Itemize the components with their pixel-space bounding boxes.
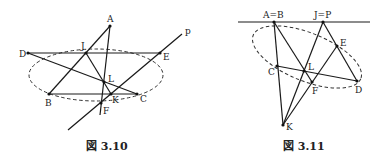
point-F [310, 80, 313, 83]
segment-JD [323, 22, 357, 81]
label-K: K [286, 122, 293, 132]
point-D [355, 79, 358, 82]
label-E: E [163, 52, 170, 62]
label-J-eq-P: J=P [313, 10, 331, 20]
point-L [302, 69, 305, 72]
segment-CD [277, 66, 357, 81]
figure-caption: 図 3.10 [86, 139, 128, 153]
label-A: A [106, 14, 114, 24]
point-K [281, 123, 284, 126]
segment-EK [283, 46, 337, 125]
figure-caption: 図 3.11 [283, 139, 325, 153]
figure-3-10: A D J E L B C K F p 図 3.10 [19, 14, 191, 153]
label-C: C [140, 94, 147, 104]
segment-AF [274, 22, 312, 82]
point-F [99, 101, 102, 104]
point-L [102, 80, 105, 83]
point-AB [272, 20, 275, 23]
label-E: E [340, 38, 347, 48]
label-A-eq-B: A=B [262, 10, 284, 20]
line-p [68, 34, 182, 130]
segment-AB [49, 26, 110, 94]
point-E [158, 51, 161, 54]
point-J [84, 51, 87, 54]
label-C: C [268, 67, 275, 77]
figure-3-11: A=B J=P E C L F D K 図 3.11 [238, 10, 370, 153]
label-D: D [19, 49, 26, 59]
point-A [108, 24, 111, 27]
label-F: F [103, 106, 109, 116]
segment-DC [28, 53, 137, 94]
point-E [335, 44, 338, 47]
label-F: F [312, 86, 318, 96]
point-D [26, 51, 29, 54]
point-C [135, 92, 138, 95]
point-C [275, 64, 278, 67]
label-K: K [112, 95, 119, 105]
diagram-canvas: A D J E L B C K F p 図 3.10 A [0, 0, 381, 165]
point-JP [321, 20, 324, 23]
label-B: B [45, 98, 52, 108]
label-D: D [355, 85, 362, 95]
label-L: L [108, 74, 114, 84]
dashed-ellipse [244, 13, 370, 101]
point-B [47, 92, 50, 95]
label-p: p [185, 26, 191, 36]
label-J: J [80, 41, 85, 51]
label-L: L [308, 62, 314, 72]
segment-AK [274, 22, 283, 125]
